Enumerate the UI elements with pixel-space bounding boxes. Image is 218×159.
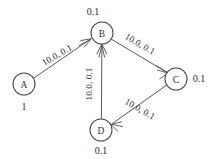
- node-d-label: D: [98, 126, 105, 136]
- node-d-weight: 0.1: [95, 145, 108, 156]
- graph-diagram: A B C D 1 0.1 0.1 0.1 10.0, 0.1: [0, 0, 218, 159]
- edge-a-to-b-weight: 10.0, 0.1: [40, 42, 74, 67]
- node-b-label: B: [99, 29, 105, 39]
- node-c-label: C: [173, 75, 179, 85]
- node-b[interactable]: B: [91, 22, 113, 44]
- edge-c-to-d-weight: 10.0, 0.1: [123, 96, 157, 121]
- edge-weight-group: 10.0, 0.1 10.0, 0.1 10.0, 0.1 10.0, 0.1: [40, 31, 157, 121]
- node-d[interactable]: D: [90, 119, 112, 141]
- edge-b-to-c-weight: 10.0, 0.1: [123, 31, 157, 56]
- edge-d-to-b: [97, 44, 107, 119]
- node-a[interactable]: A: [13, 73, 35, 95]
- node-a-weight: 1: [22, 101, 27, 112]
- node-c-weight: 0.1: [193, 73, 206, 84]
- edge-d-to-b-line: [101, 45, 102, 119]
- graph-canvas: A B C D 1 0.1 0.1 0.1 10.0, 0.1: [0, 0, 218, 159]
- node-c[interactable]: C: [165, 68, 187, 90]
- node-b-weight: 0.1: [87, 6, 100, 17]
- node-a-label: A: [21, 80, 28, 90]
- edge-d-to-b-weight: 10.0, 0.1: [84, 67, 94, 100]
- node-group: A B C D: [13, 22, 187, 141]
